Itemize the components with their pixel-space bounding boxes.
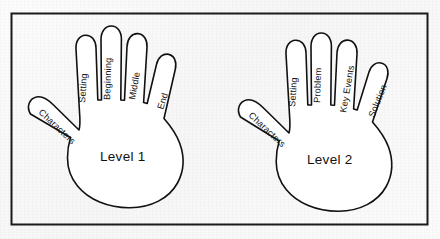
right-finger-label-index: Setting [287,77,299,107]
right-finger-label-middle: Problem [312,67,323,103]
left-hand-level-label: Level 1 [100,149,146,164]
worksheet-canvas: Characters Setting Beginning Middle End … [0,0,440,239]
left-finger-label-index: Setting [77,73,89,103]
right-hand-level-label: Level 2 [307,152,353,167]
hands-diagram: Characters Setting Beginning Middle End … [0,0,440,239]
left-hand-group[interactable]: Characters Setting Beginning Middle End … [28,26,182,208]
left-finger-label-middle: Beginning [102,58,113,101]
right-hand-group[interactable]: Characters Setting Problem Key Events So… [238,33,391,211]
